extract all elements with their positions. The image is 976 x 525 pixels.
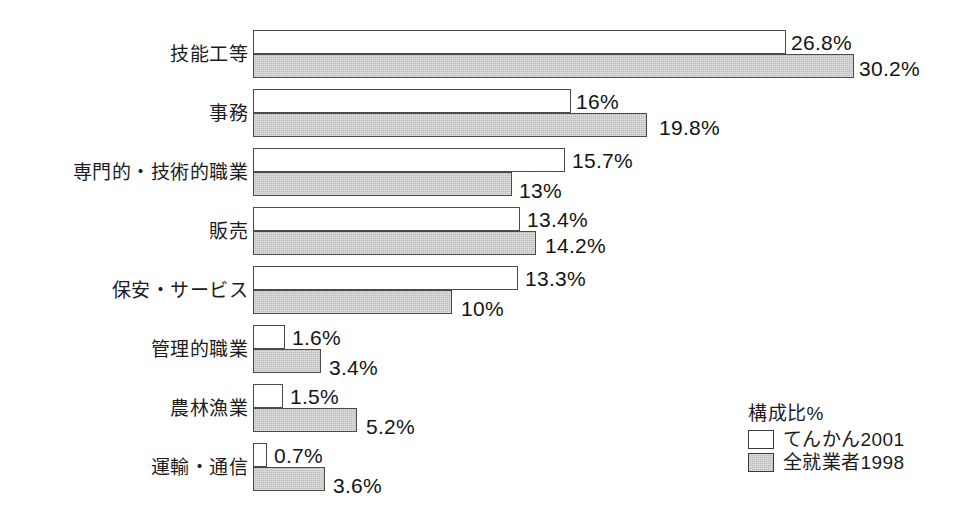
bar-chart: 技能工等 事務 専門的・技術的職業 販売 保安・サービス 管理的職業 農林漁業 … — [0, 0, 976, 525]
category-label: 専門的・技術的職業 — [73, 163, 249, 182]
bar-series-a — [253, 325, 285, 349]
legend-title: 構成比% — [748, 404, 968, 423]
category-label: 保安・サービス — [112, 281, 249, 300]
value-label-series-a: 13.3% — [525, 268, 586, 289]
bar-series-a — [253, 207, 520, 231]
value-label-series-b: 19.8% — [659, 117, 720, 138]
bar-series-a — [253, 266, 518, 290]
bar-series-b — [253, 172, 512, 196]
category-label: 販売 — [209, 222, 248, 241]
value-label-series-b: 14.2% — [545, 235, 606, 256]
category-label: 事務 — [209, 104, 248, 123]
value-label-series-b: 30.2% — [859, 58, 920, 79]
bar-series-b — [253, 349, 321, 373]
value-label-series-a: 0.7% — [274, 445, 323, 466]
legend-swatch-icon — [748, 453, 774, 472]
category-label: 運輸・通信 — [151, 458, 249, 477]
value-label-series-a: 1.5% — [290, 386, 339, 407]
value-label-series-a: 15.7% — [572, 150, 633, 171]
bar-series-b — [253, 113, 647, 137]
value-label-series-b: 13% — [519, 180, 562, 201]
legend-label: てんかん2001 — [783, 430, 904, 449]
value-label-series-a: 1.6% — [292, 327, 341, 348]
bar-series-a — [253, 148, 565, 172]
legend-label: 全就業者1998 — [783, 453, 904, 472]
category-label: 技能工等 — [170, 45, 248, 64]
legend: 構成比% てんかん2001 全就業者1998 — [748, 404, 968, 476]
value-label-series-a: 13.4% — [527, 209, 588, 230]
bar-series-a — [253, 30, 786, 54]
legend-item-series-a: てんかん2001 — [748, 430, 968, 449]
value-label-series-b: 3.4% — [329, 357, 378, 378]
value-label-series-a: 26.8% — [791, 32, 852, 53]
bar-series-a — [253, 384, 283, 408]
bar-series-b — [253, 290, 452, 314]
category-label: 農林漁業 — [170, 399, 248, 418]
value-label-series-b: 5.2% — [366, 416, 415, 437]
category-label: 管理的職業 — [151, 340, 249, 359]
legend-swatch-icon — [748, 430, 774, 449]
bar-series-b — [253, 231, 536, 255]
bar-series-b — [253, 408, 357, 432]
value-label-series-b: 10% — [461, 298, 504, 319]
bar-series-a — [253, 89, 571, 113]
legend-item-series-b: 全就業者1998 — [748, 453, 968, 472]
bar-series-a — [253, 443, 267, 467]
bar-series-b — [253, 467, 325, 491]
value-label-series-a: 16% — [576, 91, 619, 112]
bar-series-b — [253, 54, 854, 78]
value-label-series-b: 3.6% — [333, 475, 382, 496]
